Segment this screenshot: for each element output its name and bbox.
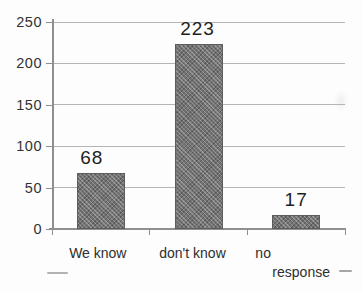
y-axis-label: 150 bbox=[6, 96, 42, 114]
scan-artifact-dash-bottom-left bbox=[47, 272, 68, 274]
y-axis-label: 100 bbox=[6, 137, 42, 155]
x-axis-tick bbox=[149, 230, 150, 235]
x-axis-tick bbox=[52, 230, 53, 235]
bar bbox=[77, 173, 125, 229]
category-label-line: response bbox=[240, 263, 362, 282]
bar bbox=[272, 215, 320, 229]
y-axis-label: 200 bbox=[6, 54, 42, 72]
bar bbox=[175, 44, 223, 229]
x-axis-tick bbox=[345, 230, 346, 235]
y-axis-label: 50 bbox=[6, 179, 42, 197]
y-axis-label: 0 bbox=[6, 220, 42, 238]
x-axis-tick bbox=[247, 230, 248, 235]
bar-value-label: 223 bbox=[166, 18, 230, 40]
bar-value-label: 17 bbox=[264, 189, 328, 211]
category-label-line: no bbox=[202, 244, 324, 263]
y-axis-line bbox=[52, 19, 54, 230]
y-axis-label: 250 bbox=[6, 13, 42, 31]
bar-value-label: 68 bbox=[60, 147, 124, 169]
category-label: noresponse bbox=[235, 244, 357, 282]
bar-chart-figure: 05010015020025068We know223don't know17n… bbox=[0, 0, 363, 292]
scan-smudge bbox=[333, 90, 349, 112]
